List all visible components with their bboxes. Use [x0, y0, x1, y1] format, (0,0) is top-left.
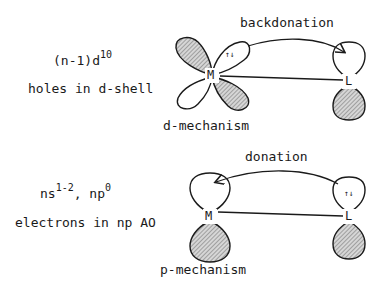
p-config-text-2: , np [74, 186, 105, 201]
p-config-superscript-2: 0 [105, 182, 111, 193]
metal-label-bottom: M [205, 210, 212, 222]
backdonation-label: backdonation [240, 16, 334, 29]
d-description: holes in d-shell [28, 82, 153, 95]
ligand-label-top: L [345, 75, 352, 87]
d-config-text: (n-1)d [53, 53, 100, 68]
p-description: electrons in np AO [15, 216, 156, 229]
d-config-label: (n-1)d10 [53, 52, 112, 67]
p-config-text-1: ns [40, 186, 56, 201]
donation-label: donation [245, 150, 308, 163]
p-config-superscript-1: 1-2 [56, 182, 74, 193]
d-config-superscript: 10 [100, 49, 112, 60]
ligand-lobe-lower [333, 222, 365, 259]
p-config-label: ns1-2, np0 [40, 185, 111, 200]
metal-label-top: M [207, 69, 214, 81]
bond-line-bottom [218, 212, 343, 216]
ligand-label-bottom: L [345, 210, 352, 222]
metal-lobe-lower [190, 222, 230, 262]
bond-line-top [220, 76, 343, 80]
p-mechanism-caption: p-mechanism [160, 263, 246, 276]
donation-arrow [216, 171, 338, 184]
ligand-lobe-upper [333, 42, 365, 78]
backdonation-arrow [248, 39, 344, 52]
electron-pair-bottom: ↑↓ [344, 190, 354, 198]
ligand-lobe-lower [333, 86, 365, 120]
orbital-diagram [0, 0, 381, 287]
electron-pair-top: ↑↓ [225, 51, 235, 59]
d-mechanism-caption: d-mechanism [163, 119, 249, 132]
